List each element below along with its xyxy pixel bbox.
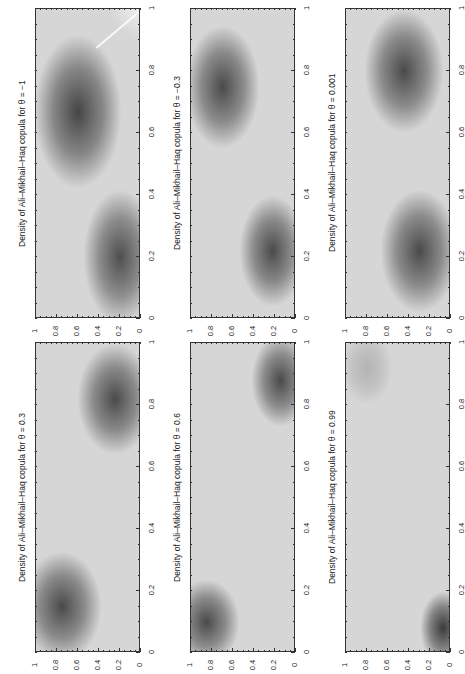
y-tick-label: 0.8	[361, 655, 371, 674]
minor-tick	[434, 342, 435, 344]
minor-tick	[77, 316, 78, 318]
minor-tick	[387, 316, 388, 318]
minor-tick	[35, 179, 37, 180]
minor-tick	[350, 8, 351, 10]
minor-tick	[88, 8, 89, 10]
minor-tick	[88, 342, 89, 344]
minor-tick	[293, 8, 295, 9]
y-tick-label: 0.4	[248, 655, 258, 674]
minor-tick	[93, 342, 94, 344]
minor-tick	[237, 342, 238, 344]
minor-tick	[440, 316, 441, 318]
minor-tick	[227, 342, 228, 344]
minor-tick	[345, 316, 346, 318]
minor-tick	[35, 650, 36, 652]
minor-tick	[345, 55, 347, 56]
minor-tick	[67, 342, 68, 344]
minor-tick	[293, 117, 295, 118]
minor-tick	[72, 8, 73, 10]
minor-tick	[293, 559, 295, 560]
minor-tick	[93, 650, 94, 652]
minor-tick	[413, 650, 414, 652]
minor-tick	[345, 513, 347, 514]
minor-tick	[119, 342, 120, 344]
minor-tick	[345, 256, 347, 257]
minor-tick	[190, 241, 192, 242]
minor-tick	[293, 303, 295, 304]
minor-tick	[408, 650, 409, 652]
minor-tick	[67, 650, 68, 652]
minor-tick	[190, 24, 192, 25]
minor-tick	[190, 303, 192, 304]
x-tick-label: 0	[302, 642, 312, 662]
minor-tick	[51, 342, 52, 344]
minor-tick	[350, 650, 351, 652]
minor-tick	[398, 8, 399, 10]
minor-tick	[103, 8, 104, 10]
x-tick-label: 0	[147, 642, 157, 662]
minor-tick	[190, 179, 192, 180]
minor-tick	[130, 8, 131, 10]
minor-tick	[448, 590, 450, 591]
y-tick-label: 0.4	[403, 321, 413, 341]
minor-tick	[448, 241, 450, 242]
minor-tick	[190, 650, 191, 652]
minor-tick	[258, 8, 259, 10]
x-tick-label: 0.6	[302, 122, 312, 142]
y-tick-label: 0.8	[51, 321, 61, 341]
minor-tick	[40, 342, 41, 344]
minor-tick	[448, 404, 450, 405]
x-tick-label: 1	[147, 0, 157, 18]
minor-tick	[295, 342, 296, 344]
minor-tick	[419, 650, 420, 652]
minor-tick	[138, 435, 140, 436]
minor-tick	[119, 316, 120, 318]
minor-tick	[445, 342, 446, 344]
minor-tick	[190, 637, 192, 638]
minor-tick	[293, 342, 295, 343]
y-tick-label: 0	[445, 321, 455, 341]
minor-tick	[138, 303, 140, 304]
minor-tick	[138, 272, 140, 273]
minor-tick	[72, 316, 73, 318]
minor-tick	[293, 210, 295, 211]
minor-tick	[190, 404, 192, 405]
x-tick-label: 0.4	[147, 184, 157, 204]
minor-tick	[222, 650, 223, 652]
minor-tick	[35, 303, 37, 304]
minor-tick	[448, 55, 450, 56]
minor-tick	[345, 373, 347, 374]
x-tick-label: 0.8	[147, 394, 157, 414]
x-tick-label: 0.2	[457, 580, 465, 600]
minor-tick	[413, 316, 414, 318]
minor-tick	[448, 163, 450, 164]
minor-tick	[382, 8, 383, 10]
y-tick-label: 1	[30, 655, 40, 674]
minor-tick	[424, 316, 425, 318]
minor-tick	[98, 342, 99, 344]
minor-tick	[40, 316, 41, 318]
minor-tick	[35, 358, 37, 359]
minor-tick	[138, 389, 140, 390]
x-tick-label: 0.6	[457, 456, 465, 476]
minor-tick	[46, 8, 47, 10]
minor-tick	[190, 590, 192, 591]
minor-tick	[445, 316, 446, 318]
minor-tick	[237, 8, 238, 10]
minor-tick	[253, 316, 254, 318]
minor-tick	[138, 117, 140, 118]
minor-tick	[103, 316, 104, 318]
minor-tick	[216, 650, 217, 652]
minor-tick	[138, 420, 140, 421]
minor-tick	[258, 650, 259, 652]
minor-tick	[248, 8, 249, 10]
minor-tick	[35, 70, 37, 71]
minor-tick	[138, 544, 140, 545]
minor-tick	[345, 287, 347, 288]
minor-tick	[130, 650, 131, 652]
minor-tick	[138, 513, 140, 514]
minor-tick	[345, 163, 347, 164]
minor-tick	[138, 358, 140, 359]
minor-tick	[345, 482, 347, 483]
minor-tick	[138, 590, 140, 591]
